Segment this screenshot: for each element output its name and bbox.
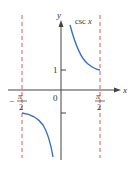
- csc-graph: y x csc x 1 0 − π 2 π 2: [0, 0, 135, 169]
- y-tick-label-1: 1: [53, 65, 58, 75]
- csc-curve-upper: [70, 25, 100, 70]
- x-tick-label-pos-den: 2: [97, 103, 101, 112]
- x-axis-label: x: [122, 85, 127, 95]
- function-label: csc x: [75, 16, 92, 26]
- x-axis-arrow-icon: [114, 88, 121, 93]
- origin-label: 0: [53, 93, 58, 103]
- csc-curve-lower: [22, 113, 53, 157]
- x-tick-label-neg-sign: −: [9, 96, 14, 106]
- y-axis-label: y: [56, 10, 61, 20]
- x-tick-label-neg-den: 2: [19, 103, 23, 112]
- y-axis-arrow-icon: [59, 20, 64, 27]
